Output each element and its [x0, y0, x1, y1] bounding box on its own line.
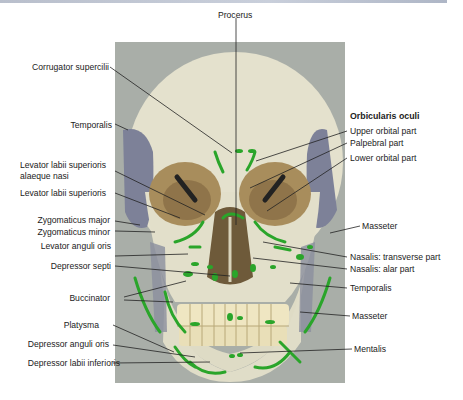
label-masseter-lower: Masseter — [352, 311, 387, 321]
label-depressor-labii-inferioris: Depressor labii inferioris — [28, 358, 120, 368]
label-levator-labii-sup-alaeque-2: alaeque nasi — [20, 171, 69, 181]
label-upper-orbital-part: Upper orbital part — [350, 126, 416, 136]
label-masseter-upper: Masseter — [362, 221, 397, 231]
label-corrugator-supercilii: Corrugator supercilii — [32, 62, 109, 72]
label-platysma: Platysma — [64, 320, 99, 330]
label-zygomaticus-major: Zygomaticus major — [37, 215, 110, 225]
label-zygomaticus-minor: Zygomaticus minor — [37, 227, 110, 237]
label-mentalis: Mentalis — [354, 344, 386, 354]
label-nasalis-transverse: Nasalis: transverse part — [350, 252, 440, 262]
label-levator-labii-sup-alaeque-1: Levator labii superioris — [20, 160, 106, 170]
label-lower-orbital-part: Lower orbital part — [350, 153, 416, 163]
label-palpebral-part: Palpebral part — [350, 138, 404, 148]
label-temporalis-left: Temporalis — [70, 120, 112, 130]
label-temporalis-right: Temporalis — [350, 283, 392, 293]
label-depressor-septi: Depressor septi — [51, 261, 111, 271]
label-depressor-anguli-oris: Depressor anguli oris — [28, 339, 109, 349]
label-levator-labii-superioris: Levator labii superioris — [20, 188, 106, 198]
label-orbicularis-oculi-heading: Orbicularis oculi — [350, 111, 419, 121]
label-buccinator: Buccinator — [69, 293, 110, 303]
label-levator-anguli-oris: Levator anguli oris — [41, 241, 111, 251]
label-procerus: Procerus — [218, 10, 252, 20]
label-nasalis-alar: Nasalis: alar part — [350, 264, 414, 274]
